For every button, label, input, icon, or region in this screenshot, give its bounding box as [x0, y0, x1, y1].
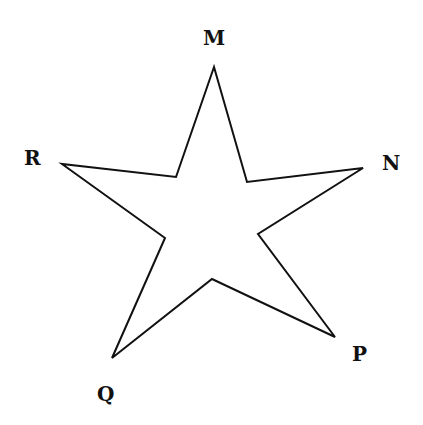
label-p: P	[352, 342, 367, 366]
star-diagram: M N P Q R	[0, 0, 423, 425]
star-outline	[62, 67, 363, 358]
label-r: R	[24, 146, 41, 170]
label-m: M	[203, 26, 225, 50]
label-q: Q	[97, 382, 114, 406]
label-n: N	[382, 151, 400, 175]
